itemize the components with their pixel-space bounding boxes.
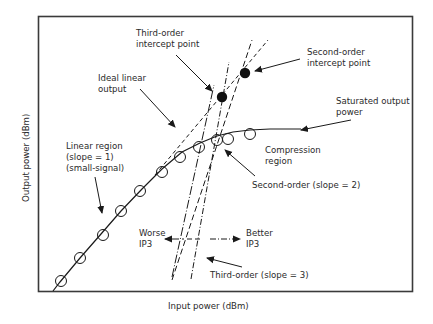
- worse-ip3-overlay: [0, 0, 433, 324]
- third-order-worse-line-visible: [172, 85, 214, 277]
